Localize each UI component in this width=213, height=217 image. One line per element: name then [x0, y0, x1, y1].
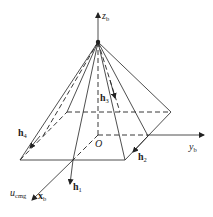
x-axis-label: xb — [38, 190, 46, 202]
h3-label: h3 — [100, 92, 109, 104]
z-axis-label: zb — [101, 10, 109, 22]
h3-arrow — [110, 80, 115, 98]
edge-front-left — [20, 42, 98, 160]
face-right-midline — [98, 42, 148, 136]
h4-label: h4 — [18, 127, 28, 139]
origin-label: O — [95, 138, 102, 149]
edge-back-left — [67, 42, 98, 112]
y-axis-label: yb — [188, 141, 197, 153]
face-left-midline — [43, 42, 98, 136]
h2-label: h2 — [138, 151, 147, 163]
apex-point — [96, 40, 100, 44]
momentum-vectors — [30, 80, 148, 184]
pyramid-diagram: zb yb xb ucmg O h1 h2 h3 h4 — [0, 0, 213, 217]
pyramid-base — [20, 112, 171, 160]
u-cmg-label: ucmg — [10, 187, 27, 199]
h1-label: h1 — [73, 181, 82, 193]
h2-arrow — [133, 136, 148, 152]
